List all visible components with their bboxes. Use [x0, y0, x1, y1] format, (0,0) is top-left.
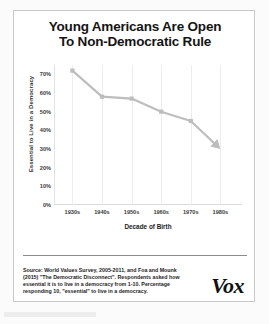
- data-point-marker: [100, 95, 104, 99]
- y-axis-tick: 0%: [43, 202, 51, 208]
- data-point-marker: [130, 97, 134, 101]
- infographic-card: Young Americans Are Open To Non-Democrat…: [13, 10, 255, 302]
- x-axis-tick: 1980s: [213, 209, 229, 215]
- x-axis-tick: 1970s: [183, 209, 199, 215]
- screenshot-root: Young Americans Are Open To Non-Democrat…: [0, 0, 269, 324]
- scan-artifact: [4, 312, 96, 317]
- y-axis-tick: 60%: [40, 90, 51, 96]
- x-axis-tick: 1930s: [65, 209, 81, 215]
- title-line-2: To Non-Democratic Rule: [14, 34, 256, 49]
- chart-area: Essential to Live in a Democracy 0%10%20…: [14, 59, 256, 244]
- y-axis-tick: 20%: [40, 165, 51, 171]
- data-point-marker: [159, 110, 163, 114]
- y-axis-tick: 30%: [40, 146, 51, 152]
- y-axis-tick: 40%: [40, 127, 51, 133]
- y-axis-tick: 50%: [40, 109, 51, 115]
- vox-logo: Vox: [211, 273, 244, 299]
- y-axis-tick: 10%: [40, 183, 51, 189]
- page-title: Young Americans Are Open To Non-Democrat…: [14, 19, 256, 49]
- data-point-marker: [189, 119, 193, 123]
- y-axis-title: Essential to Live in a Democracy: [28, 59, 34, 189]
- data-series: [54, 65, 242, 205]
- y-axis-tick: 70%: [40, 71, 51, 77]
- plot-region: 0%10%20%30%40%50%60%70%1930s1940s1950s19…: [54, 65, 242, 205]
- x-axis-title: Decade of Birth: [54, 223, 242, 230]
- source-note: Source: World Values Survey, 2005-2011, …: [23, 267, 191, 295]
- x-axis-tick: 1960s: [153, 209, 169, 215]
- x-axis-tick: 1950s: [124, 209, 140, 215]
- x-axis-tick: 1940s: [94, 209, 110, 215]
- footer-divider: [23, 255, 247, 256]
- data-point-marker: [70, 69, 74, 73]
- title-line-1: Young Americans Are Open: [14, 19, 256, 34]
